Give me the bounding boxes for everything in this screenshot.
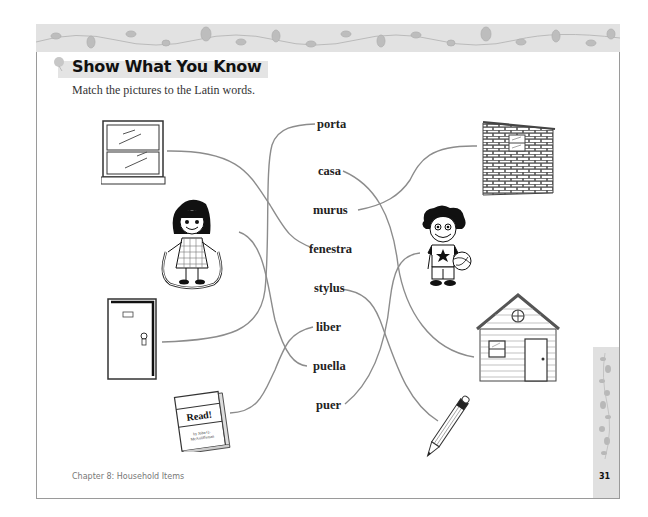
vine-decoration-icon <box>593 347 619 467</box>
line-girl-puella <box>239 232 307 366</box>
window-picture[interactable] <box>101 120 167 186</box>
book-icon: Read! by John Q. McAuliffeman <box>170 390 234 452</box>
line-book-liber <box>230 327 313 413</box>
word-liber[interactable]: liber <box>316 320 341 335</box>
house-picture[interactable] <box>475 293 561 385</box>
word-casa[interactable]: casa <box>318 164 341 179</box>
word-stylus[interactable]: stylus <box>314 281 345 296</box>
chapter-footer: Chapter 8: Household Items <box>72 472 184 481</box>
word-porta[interactable]: porta <box>317 117 346 132</box>
word-puer[interactable]: puer <box>316 398 341 413</box>
door-picture[interactable] <box>107 298 163 382</box>
page-number: 31 <box>599 472 610 481</box>
word-murus[interactable]: murus <box>313 203 348 218</box>
boy-picture[interactable] <box>418 205 482 295</box>
matching-lines <box>0 0 648 517</box>
pencil-picture[interactable] <box>422 390 472 466</box>
girl-picture[interactable] <box>160 196 240 292</box>
book-picture[interactable]: Read! by John Q. McAuliffeman <box>170 390 234 452</box>
line-wall-murus <box>358 146 477 210</box>
word-fenestra[interactable]: fenestra <box>309 242 352 257</box>
word-puella[interactable]: puella <box>313 359 346 374</box>
brick-wall-picture[interactable] <box>481 121 557 197</box>
